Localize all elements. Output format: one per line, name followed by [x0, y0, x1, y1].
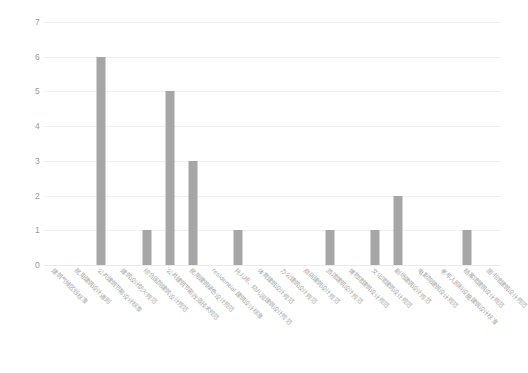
bar-slot	[410, 22, 433, 265]
bar[interactable]	[371, 230, 380, 265]
x-tick: residential 建筑设计标准	[204, 265, 227, 373]
bar-slot	[432, 22, 455, 265]
bar-slot	[113, 22, 136, 265]
y-tick-label: 6	[6, 52, 40, 61]
x-tick: 电影院建筑设计规范	[410, 265, 433, 373]
x-axis-labels: 建筑气候区划标准民用建筑设计通则公共建筑节能设计标准建筑设计防火规范综合医院建筑…	[44, 265, 501, 373]
x-tick: 托儿所、幼儿园建筑设计规范	[227, 265, 250, 373]
bar-slot	[204, 22, 227, 265]
x-tick: 公共建筑节能设计标准	[90, 265, 113, 373]
x-tick: 公共建筑节能改造技术规范	[158, 265, 181, 373]
bars	[44, 22, 501, 265]
x-tick: 综合医院建筑设计规范	[135, 265, 158, 373]
x-tick: 旅馆建筑设计规范	[318, 265, 341, 373]
x-tick: 商店建筑设计规范	[295, 265, 318, 373]
x-tick: 文化馆建筑设计规范	[364, 265, 387, 373]
bar-slot	[44, 22, 67, 265]
bar[interactable]	[234, 230, 243, 265]
bar[interactable]	[325, 230, 334, 265]
bar[interactable]	[142, 230, 151, 265]
bar[interactable]	[97, 57, 106, 265]
bar-slot	[295, 22, 318, 265]
bar-slot	[273, 22, 296, 265]
bar[interactable]	[462, 230, 471, 265]
x-tick: 老年人照料设施建筑设计标准	[432, 265, 455, 373]
bar-slot	[364, 22, 387, 265]
bar-slot	[387, 22, 410, 265]
bar-slot	[135, 22, 158, 265]
bar-slot	[67, 22, 90, 265]
x-tick: 建筑气候区划标准	[44, 265, 67, 373]
y-tick-label: 1	[6, 226, 40, 235]
x-tick: 体育建筑设计规范	[250, 265, 273, 373]
x-tick: 剧场建筑设计规范	[387, 265, 410, 373]
bar-slot	[90, 22, 113, 265]
plot-area	[44, 22, 501, 265]
x-tick: 民用建筑设计通则	[67, 265, 90, 373]
x-tick: 民用建筑绿色设计规范	[181, 265, 204, 373]
x-tick: 建筑设计防火规范	[113, 265, 136, 373]
y-tick-label: 7	[6, 18, 40, 27]
y-axis: 01234567	[0, 22, 40, 265]
x-tick: 博物馆建筑设计规范	[341, 265, 364, 373]
bar[interactable]	[165, 91, 174, 265]
bar-slot	[318, 22, 341, 265]
bar-slot	[455, 22, 478, 265]
x-tick: 办公建筑设计规范	[273, 265, 296, 373]
y-tick-label: 3	[6, 157, 40, 166]
bar-slot	[478, 22, 501, 265]
bar-slot	[250, 22, 273, 265]
bar-slot	[181, 22, 204, 265]
bar-slot	[341, 22, 364, 265]
bar[interactable]	[394, 196, 403, 265]
bar-slot	[227, 22, 250, 265]
x-tick-label: 图书馆建筑设计规范	[485, 267, 527, 309]
y-tick-label: 2	[6, 191, 40, 200]
y-tick-label: 5	[6, 87, 40, 96]
y-tick-label: 0	[6, 261, 40, 270]
x-tick: 图书馆建筑设计规范	[478, 265, 501, 373]
y-tick-label: 4	[6, 122, 40, 131]
bar-slot	[158, 22, 181, 265]
bar[interactable]	[188, 161, 197, 265]
x-tick: 档案馆建筑设计规范	[455, 265, 478, 373]
